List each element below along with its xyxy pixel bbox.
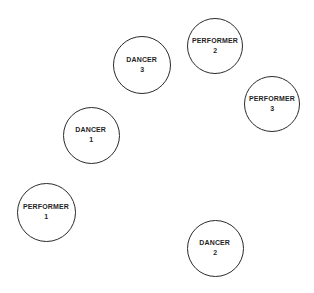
node-role-label: PERFORMER bbox=[23, 203, 69, 211]
node-dancer-3[interactable]: DANCER3 bbox=[113, 36, 171, 94]
node-index-label: 2 bbox=[213, 47, 217, 55]
node-index-label: 3 bbox=[140, 66, 144, 74]
node-role-label: DANCER bbox=[76, 126, 107, 134]
node-role-label: PERFORMER bbox=[249, 95, 295, 103]
node-index-label: 3 bbox=[270, 105, 274, 113]
node-index-label: 1 bbox=[44, 213, 48, 221]
node-performer-2[interactable]: PERFORMER2 bbox=[187, 18, 243, 74]
node-index-label: 2 bbox=[213, 249, 217, 257]
diagram-canvas: DANCER3PERFORMER2PERFORMER3DANCER1PERFOR… bbox=[0, 0, 314, 293]
node-role-label: DANCER bbox=[200, 239, 231, 247]
node-dancer-2[interactable]: DANCER2 bbox=[187, 220, 244, 277]
node-dancer-1[interactable]: DANCER1 bbox=[63, 107, 120, 164]
node-role-label: PERFORMER bbox=[192, 37, 238, 45]
node-index-label: 1 bbox=[89, 136, 93, 144]
node-performer-3[interactable]: PERFORMER3 bbox=[244, 76, 300, 132]
node-performer-1[interactable]: PERFORMER1 bbox=[17, 183, 76, 242]
node-role-label: DANCER bbox=[127, 56, 158, 64]
